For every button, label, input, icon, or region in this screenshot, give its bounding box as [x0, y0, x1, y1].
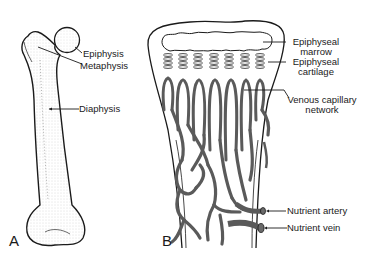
label-venous-capillary-network: Venous capillary network	[282, 95, 362, 115]
bone-diagram: Epiphysis Metaphysis Diaphysis A Epiphys…	[0, 0, 368, 258]
label-metaphysis: Metaphysis	[80, 61, 128, 71]
label-epiphyseal-cartilage-line2: cartilage	[286, 67, 346, 77]
label-diaphysis: Diaphysis	[79, 104, 120, 114]
label-epiphysis: Epiphysis	[83, 49, 124, 59]
panel-letter-a: A	[9, 232, 19, 249]
femur-illustration	[22, 28, 85, 246]
label-nutrient-vein: Nutrient vein	[287, 223, 340, 233]
bone-end-illustration	[148, 21, 289, 248]
panel-letter-b: B	[162, 232, 172, 249]
label-venous-capillary-network-line2: network	[282, 105, 362, 115]
label-epiphyseal-marrow: Epiphyseal marrow	[286, 37, 346, 57]
label-nutrient-artery: Nutrient artery	[287, 206, 347, 216]
label-epiphyseal-cartilage: Epiphyseal cartilage	[286, 57, 346, 77]
